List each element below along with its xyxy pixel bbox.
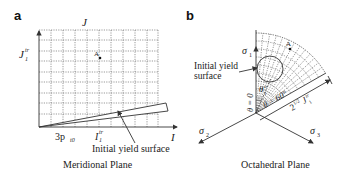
initial-yield-annotation: Initial yield surface <box>92 143 170 154</box>
panel-a-label: a <box>14 8 22 23</box>
octahedral-caption: Octahedral Plane <box>241 159 310 170</box>
point-a-marker <box>99 57 102 60</box>
radius-dimension-tick <box>328 76 332 84</box>
point-a-marker-b <box>289 48 292 51</box>
svg-text:σ: σ <box>199 125 205 136</box>
point-a-label-b: A <box>286 40 291 48</box>
svg-text:3p: 3p <box>55 131 65 142</box>
svg-text:1: 1 <box>249 52 252 58</box>
svg-text:1: 1 <box>308 99 313 105</box>
sigma2-label: σ 2 <box>199 125 209 138</box>
svg-text:3: 3 <box>317 132 320 138</box>
j1-tr-label: J 1 tr <box>19 47 30 62</box>
sigma3-label: σ 3 <box>310 125 320 138</box>
sigma1-label: σ 1 <box>242 45 252 58</box>
yield-annotation-line1: Initial yield <box>194 61 238 71</box>
panel-b-label: b <box>186 8 194 23</box>
figure: a J I <box>0 0 355 178</box>
svg-text:tr: tr <box>264 84 267 89</box>
panel-a-meridional-plane: a J I <box>14 8 177 170</box>
svg-text:σ: σ <box>242 45 248 56</box>
svg-text:σ: σ <box>310 125 316 136</box>
yield-surface-wedge <box>39 103 168 127</box>
i-axis-label: I <box>170 131 176 143</box>
svg-text:2: 2 <box>206 132 209 138</box>
yield-surface-circle <box>257 56 283 82</box>
point-a-label: A <box>94 50 99 58</box>
svg-text:1/2: 1/2 <box>292 98 300 106</box>
radius-label: 2 1/2 J 1 tr <box>288 93 313 115</box>
theta-zero-label: θ = 0 <box>245 93 255 112</box>
j-axis-label: J <box>82 16 88 28</box>
svg-text:tr: tr <box>25 47 30 53</box>
sigma2-axis <box>199 113 256 143</box>
3pt0-label: 3p t0 <box>55 131 75 143</box>
svg-text:t0: t0 <box>70 137 75 143</box>
yield-annotation-line2: surface <box>194 71 221 81</box>
svg-text:1: 1 <box>25 56 28 62</box>
svg-text:tr: tr <box>99 129 104 135</box>
meridional-caption: Meridional Plane <box>63 159 133 170</box>
i1-tr-label: I 1 tr <box>94 129 104 143</box>
yield-annotation-arrow <box>239 68 257 72</box>
panel-b-octahedral-plane: b <box>186 8 332 170</box>
